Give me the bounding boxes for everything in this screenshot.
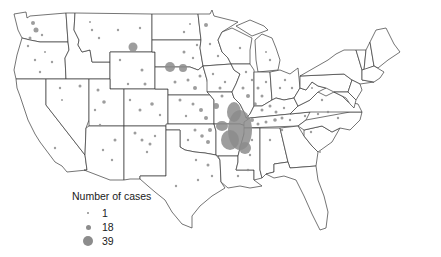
legend-item-1: 1 (72, 206, 151, 220)
legend-label: 18 (102, 221, 114, 233)
circle-medium-icon (86, 225, 91, 230)
legend-item-39: 39 (72, 234, 151, 248)
legend-label: 39 (102, 235, 114, 247)
legend: Number of cases 1 18 39 (72, 190, 151, 248)
circle-small-icon (87, 212, 89, 214)
legend-title: Number of cases (72, 190, 151, 202)
legend-item-18: 18 (72, 220, 151, 234)
legend-label: 1 (102, 207, 108, 219)
circle-large-icon (83, 236, 93, 246)
us-map (0, 0, 441, 257)
